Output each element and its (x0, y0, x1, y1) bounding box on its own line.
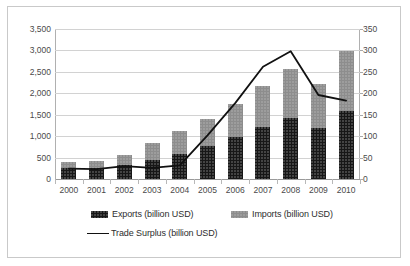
y-axis-right-tick-label: 50 (363, 154, 372, 162)
x-axis-tickmark (221, 179, 222, 184)
y-axis-left-tick-label: 3,000 (30, 46, 51, 54)
x-axis-tickmark (110, 179, 111, 184)
y-axis-left-tick-label: 1,000 (30, 132, 51, 140)
legend-label-imports: Imports (billion USD) (252, 209, 333, 219)
legend-item-exports[interactable]: Exports (billion USD) (91, 209, 193, 219)
legend-item-imports[interactable]: Imports (billion USD) (231, 209, 333, 219)
y-axis-left-tick-label: 500 (37, 154, 51, 162)
imports-swatch-icon (231, 211, 248, 218)
y-axis-left-tick-label: 2,000 (30, 89, 51, 97)
x-axis-tickmark (83, 179, 84, 184)
legend-label-exports: Exports (billion USD) (112, 209, 193, 219)
y-axis-right-tick-label: 100 (363, 132, 377, 140)
y-axis-right-tick-label: 150 (363, 111, 377, 119)
y-axis-right-tick-label: 0 (363, 175, 368, 183)
gridline (55, 179, 360, 180)
x-axis-tickmark (194, 179, 195, 184)
plot-area (55, 29, 360, 179)
legend-label-trade-surplus: Trade Surplus (billion USD) (111, 228, 218, 238)
y-axis-right: 050100150200250300350 (363, 29, 397, 179)
x-axis-tickmark (138, 179, 139, 184)
exports-swatch-icon (91, 211, 108, 218)
legend-item-trade-surplus[interactable]: Trade Surplus (billion USD) (87, 228, 218, 238)
y-axis-left-tick-label: 1,500 (30, 111, 51, 119)
x-axis-tickmark (360, 179, 361, 184)
y-axis-left: 05001,0001,5002,0002,5003,0003,500 (14, 29, 51, 179)
chart-frame: 05001,0001,5002,0002,5003,0003,500 05010… (7, 6, 401, 258)
line-swatch-icon (87, 233, 109, 234)
y-axis-right-tick-label: 300 (363, 46, 377, 54)
y-axis-right-tick-label: 350 (363, 25, 377, 33)
y-axis-right-tick-label: 200 (363, 89, 377, 97)
x-axis-tickmark (166, 179, 167, 184)
y-axis-left-tick-label: 2,500 (30, 68, 51, 76)
trade-surplus-line (55, 29, 360, 179)
x-axis-tickmark (277, 179, 278, 184)
y-axis-right-tick-label: 250 (363, 68, 377, 76)
x-axis-tickmark (332, 179, 333, 184)
x-axis-tick-label: 2010 (330, 185, 362, 195)
x-axis: 2000200120022003200420052006200720082009… (55, 185, 360, 199)
x-axis-tickmark (55, 179, 56, 184)
chart-legend: Exports (billion USD) Imports (billion U… (55, 209, 385, 253)
y-axis-left-tick-label: 3,500 (30, 25, 51, 33)
y-axis-left-tick-label: 0 (46, 175, 51, 183)
x-axis-tickmark (249, 179, 250, 184)
x-axis-tickmark (305, 179, 306, 184)
